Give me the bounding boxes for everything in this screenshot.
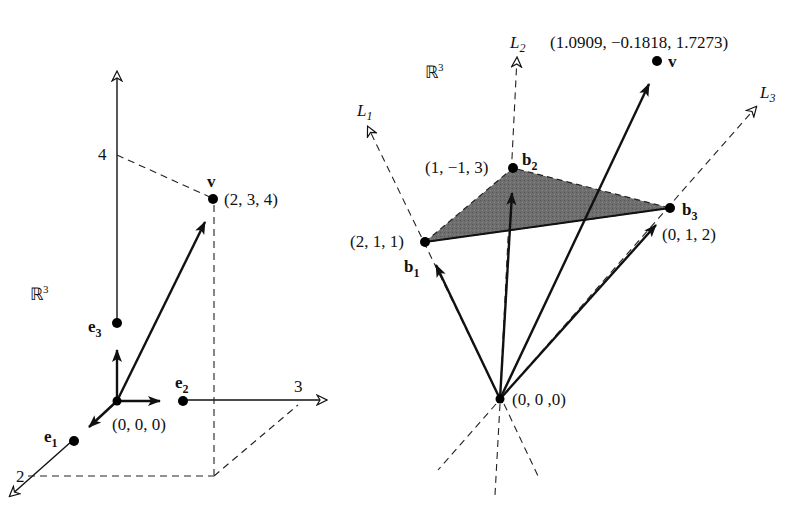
- v-point: [208, 194, 218, 204]
- v-label: v: [668, 52, 677, 71]
- origin-point: [496, 395, 505, 404]
- b2-coords-label: (1, −1, 3): [425, 158, 488, 177]
- v-vector: [117, 222, 205, 401]
- projection-y: [214, 405, 298, 476]
- b3-vector: [500, 225, 656, 399]
- e3-point: [112, 318, 122, 328]
- b3-point: [665, 203, 675, 213]
- e1-label: e1: [44, 427, 58, 450]
- b1-point: [420, 237, 430, 247]
- line-L2-extension: [495, 404, 500, 495]
- b1-coords-label: (2, 1, 1): [350, 232, 404, 251]
- b3-label: b3: [682, 200, 697, 223]
- L2-label: L2: [509, 33, 525, 55]
- line-L1-extension: [504, 404, 538, 476]
- left-panel: ℝ3 4 3 2 v (2, 3, 4) (0, 0, 0) e3 e2 e1: [10, 72, 326, 496]
- b1-label: b1: [404, 257, 419, 280]
- projection-z: [117, 155, 212, 198]
- b2-point: [508, 163, 518, 173]
- v-coords-label: (1.0909, −0.1818, 1.7273): [550, 33, 728, 52]
- L1-label: L1: [356, 101, 372, 123]
- right-panel: ℝ3 L1 L2 L3 (1.0909, −0.1818, 1.7273) v …: [350, 33, 775, 495]
- v-coords-label: (2, 3, 4): [224, 190, 278, 209]
- origin-label: (0, 0, 0): [112, 415, 166, 434]
- v-label: v: [207, 172, 216, 191]
- left-space-label: ℝ3: [30, 283, 49, 304]
- v-point: [652, 56, 662, 66]
- L3-label: L3: [759, 83, 775, 105]
- b1-vector: [436, 265, 500, 399]
- right-space-label: ℝ3: [425, 61, 444, 82]
- y-tick-label: 3: [294, 377, 303, 396]
- x-tick-label: 2: [16, 467, 25, 486]
- e2-point: [178, 396, 188, 406]
- e1-point: [69, 436, 79, 446]
- diagram-canvas: ℝ3 4 3 2 v (2, 3, 4) (0, 0, 0) e3 e2 e1: [0, 0, 796, 515]
- line-L3-extension: [438, 404, 496, 470]
- basis-triangle: [425, 168, 670, 242]
- b3-coords-label: (0, 1, 2): [662, 225, 716, 244]
- b2-label: b2: [522, 150, 537, 173]
- v-vector: [500, 84, 649, 399]
- origin-point: [113, 397, 122, 406]
- z-tick-label: 4: [98, 145, 107, 164]
- e3-label: e3: [88, 317, 102, 340]
- e2-label: e2: [175, 373, 189, 396]
- origin-label: (0, 0 ,0): [512, 390, 566, 409]
